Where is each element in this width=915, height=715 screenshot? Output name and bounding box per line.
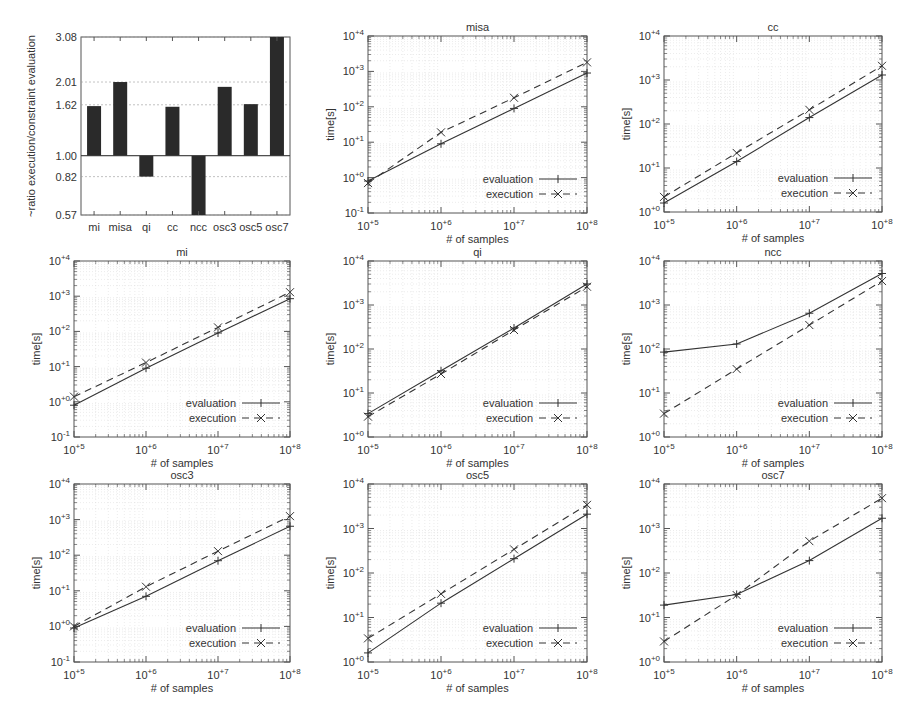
svg-text:10+7: 10+7 <box>799 217 821 231</box>
svg-text:10+3: 10+3 <box>343 297 365 311</box>
chart-title: osc5 <box>466 469 489 481</box>
svg-text:10+8: 10+8 <box>576 218 598 232</box>
x-axis-label: # of samples <box>446 457 509 469</box>
svg-text:10+0: 10+0 <box>639 654 661 668</box>
svg-text:10+4: 10+4 <box>343 28 365 42</box>
chart-title: ncc <box>764 246 782 258</box>
svg-text:10+2: 10+2 <box>49 547 71 561</box>
svg-text:10+8: 10+8 <box>279 442 301 456</box>
svg-text:10+4: 10+4 <box>343 253 365 267</box>
bar-mi <box>87 106 101 156</box>
svg-text:10+0: 10+0 <box>343 170 365 184</box>
svg-text:10+2: 10+2 <box>343 341 365 355</box>
svg-text:evaluation: evaluation <box>483 622 533 634</box>
y-axis-label: time[s] <box>30 333 42 365</box>
x-axis-label: # of samples <box>446 682 509 694</box>
svg-text:execution: execution <box>781 637 828 649</box>
x-axis-label: # of samples <box>742 232 805 244</box>
svg-text:10-1: 10-1 <box>345 205 365 219</box>
svg-text:10+0: 10+0 <box>49 394 71 408</box>
x-tick-label: osc5 <box>239 221 262 233</box>
svg-text:10+5: 10+5 <box>653 217 675 231</box>
svg-text:evaluation: evaluation <box>186 622 236 634</box>
x-axis-label: # of samples <box>446 233 509 245</box>
svg-text:10+3: 10+3 <box>49 288 71 302</box>
svg-text:10+3: 10+3 <box>343 63 365 77</box>
line-chart-qi: 10+510+610+710+810+010+110+210+310+4qi# … <box>324 246 598 469</box>
y-axis-label: time[s] <box>620 557 632 589</box>
svg-text:10+5: 10+5 <box>357 218 379 232</box>
svg-text:10+1: 10+1 <box>49 359 71 373</box>
svg-text:10+1: 10+1 <box>343 134 365 148</box>
x-tick-label: mi <box>88 221 100 233</box>
svg-text:10+5: 10+5 <box>653 442 675 456</box>
line-chart-osc7: 10+510+610+710+810+010+110+210+310+4osc7… <box>620 469 893 694</box>
chart-title: qi <box>473 246 482 258</box>
chart-title: mi <box>176 246 188 258</box>
svg-text:10+4: 10+4 <box>639 253 661 267</box>
svg-text:10+7: 10+7 <box>503 667 525 681</box>
svg-text:10+1: 10+1 <box>639 160 661 174</box>
y-tick-label: 2.01 <box>56 76 77 88</box>
svg-text:10+1: 10+1 <box>49 583 71 597</box>
svg-text:execution: execution <box>486 412 533 424</box>
svg-text:10+1: 10+1 <box>639 610 661 624</box>
svg-text:10+8: 10+8 <box>576 667 598 681</box>
svg-text:10+3: 10+3 <box>639 297 661 311</box>
svg-text:10+8: 10+8 <box>871 442 893 456</box>
svg-text:execution: execution <box>486 637 533 649</box>
svg-text:10+5: 10+5 <box>63 442 85 456</box>
svg-text:10+4: 10+4 <box>639 476 661 490</box>
svg-text:10+2: 10+2 <box>343 565 365 579</box>
svg-text:10+3: 10+3 <box>343 521 365 535</box>
svg-text:10+6: 10+6 <box>430 218 452 232</box>
bar-cc <box>165 107 179 156</box>
line-chart-misa: 10+510+610+710+810-110+010+110+210+310+4… <box>324 21 598 245</box>
svg-text:10-1: 10-1 <box>51 429 71 443</box>
x-tick-label: osc7 <box>265 221 288 233</box>
bar-qi <box>139 156 153 177</box>
svg-text:evaluation: evaluation <box>483 397 533 409</box>
svg-text:10+1: 10+1 <box>343 610 365 624</box>
svg-text:10+6: 10+6 <box>430 667 452 681</box>
y-axis-label: time[s] <box>30 557 42 589</box>
svg-text:10+6: 10+6 <box>135 667 157 681</box>
svg-text:10+8: 10+8 <box>279 667 301 681</box>
svg-text:10+3: 10+3 <box>639 72 661 86</box>
svg-text:execution: execution <box>189 637 236 649</box>
svg-text:10+2: 10+2 <box>639 565 661 579</box>
y-tick-label: 1.00 <box>56 150 77 162</box>
svg-text:10+1: 10+1 <box>639 385 661 399</box>
svg-text:10+6: 10+6 <box>726 442 748 456</box>
x-tick-label: misa <box>109 221 133 233</box>
bar-chart-ratio: 3.082.011.621.000.820.57mimisaqiccnccosc… <box>25 31 290 233</box>
svg-text:evaluation: evaluation <box>778 397 828 409</box>
line-chart-osc3: 10+510+610+710+810-110+010+110+210+310+4… <box>30 469 301 694</box>
svg-text:10+6: 10+6 <box>430 442 452 456</box>
y-axis-label: ~ratio execution/constraint evaluation <box>25 35 37 217</box>
svg-text:10+5: 10+5 <box>63 667 85 681</box>
line-chart-osc5: 10+510+610+710+810+010+110+210+310+4osc5… <box>324 469 598 694</box>
svg-text:10+7: 10+7 <box>207 667 229 681</box>
svg-text:10+0: 10+0 <box>343 654 365 668</box>
svg-text:10+3: 10+3 <box>639 521 661 535</box>
y-axis-label: time[s] <box>324 333 336 365</box>
svg-text:10+4: 10+4 <box>343 476 365 490</box>
y-axis-label: time[s] <box>620 333 632 365</box>
svg-text:10+4: 10+4 <box>49 476 71 490</box>
svg-text:10+6: 10+6 <box>726 217 748 231</box>
y-axis-label: time[s] <box>324 108 336 140</box>
chart-title: osc7 <box>761 469 784 481</box>
svg-text:10+3: 10+3 <box>49 512 71 526</box>
svg-text:10+7: 10+7 <box>503 442 525 456</box>
svg-text:evaluation: evaluation <box>483 173 533 185</box>
bar-osc3 <box>218 87 232 156</box>
y-tick-label: 0.82 <box>56 171 77 183</box>
svg-text:10+8: 10+8 <box>576 442 598 456</box>
y-tick-label: 3.08 <box>56 31 77 43</box>
bar-osc5 <box>244 104 258 156</box>
figure-canvas: 3.082.011.621.000.820.57mimisaqiccnccosc… <box>0 0 915 715</box>
svg-text:evaluation: evaluation <box>778 622 828 634</box>
svg-text:10-1: 10-1 <box>51 654 71 668</box>
svg-text:10+7: 10+7 <box>799 667 821 681</box>
